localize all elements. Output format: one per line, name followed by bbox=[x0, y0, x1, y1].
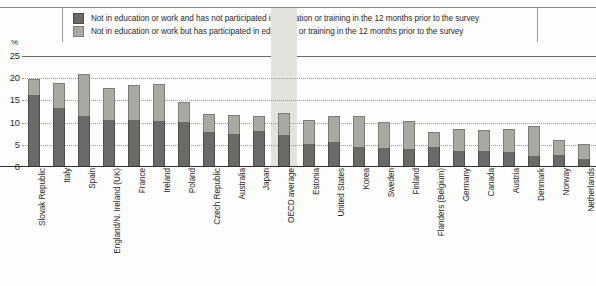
bar-denmark bbox=[528, 126, 540, 167]
bar-segment-not-participated bbox=[178, 122, 190, 167]
bar-segment-participated bbox=[353, 116, 365, 146]
bar-poland bbox=[178, 102, 190, 167]
bar-italy bbox=[53, 83, 65, 167]
y-tick-10: 10 bbox=[0, 118, 20, 128]
bar-segment-not-participated bbox=[278, 135, 290, 167]
bar-segment-not-participated bbox=[253, 131, 265, 167]
plot-area bbox=[22, 56, 596, 167]
gridline-20 bbox=[22, 78, 596, 79]
x-label-italy: Italy bbox=[63, 168, 72, 183]
x-label-canada: Canada bbox=[487, 168, 496, 196]
bar-segment-participated bbox=[53, 83, 65, 108]
bar-segment-not-participated bbox=[353, 147, 365, 167]
x-label-estonia: Estonia bbox=[312, 168, 321, 195]
y-tick-0: 0 bbox=[0, 162, 20, 172]
legend-swatch-dark bbox=[73, 13, 84, 24]
bar-segment-not-participated bbox=[153, 121, 165, 167]
bar-netherlands bbox=[578, 144, 590, 167]
bar-segment-participated bbox=[253, 116, 265, 132]
bar-korea bbox=[353, 116, 365, 167]
bar-finland bbox=[403, 121, 415, 167]
y-tick-20: 20 bbox=[0, 73, 20, 83]
bar-segment-participated bbox=[528, 126, 540, 156]
x-label-netherlands: Netherlands bbox=[587, 168, 596, 212]
x-label-norway: Norway bbox=[562, 168, 571, 195]
x-label-finland: Finland bbox=[412, 168, 421, 195]
bar-segment-participated bbox=[553, 140, 565, 156]
bar-segment-participated bbox=[103, 88, 115, 120]
x-label-poland: Poland bbox=[188, 168, 197, 193]
bar-oecd-average bbox=[278, 113, 290, 167]
bar-england-n-ireland-uk bbox=[103, 88, 115, 167]
bar-segment-participated bbox=[178, 102, 190, 122]
bar-germany bbox=[453, 129, 465, 167]
x-label-germany: Germany bbox=[462, 168, 471, 201]
bar-segment-participated bbox=[153, 84, 165, 121]
bar-estonia bbox=[303, 120, 315, 167]
bar-segment-not-participated bbox=[428, 147, 440, 167]
x-label-france: France bbox=[138, 168, 147, 193]
chart-figure: Not in education or work and has not par… bbox=[0, 0, 596, 286]
bar-segment-not-participated bbox=[453, 151, 465, 167]
bar-segment-participated bbox=[403, 121, 415, 149]
bar-segment-not-participated bbox=[378, 148, 390, 167]
bar-segment-participated bbox=[28, 79, 40, 95]
y-tick-25: 25 bbox=[0, 51, 20, 61]
x-label-oecd-average: OECD average bbox=[287, 168, 296, 223]
bar-france bbox=[128, 85, 140, 167]
bar-segment-participated bbox=[203, 114, 215, 133]
bar-segment-participated bbox=[228, 115, 240, 135]
x-label-slovak-republic: Slovak Republic bbox=[38, 168, 47, 226]
bar-canada bbox=[478, 130, 490, 167]
x-label-australia: Australia bbox=[238, 168, 247, 199]
x-label-spain: Spain bbox=[88, 168, 97, 189]
legend-item-participated: Not in education or work but has partici… bbox=[73, 25, 463, 38]
bar-segment-participated bbox=[78, 74, 90, 116]
bar-segment-not-participated bbox=[403, 149, 415, 167]
bar-segment-not-participated bbox=[503, 152, 515, 167]
bar-segment-not-participated bbox=[28, 95, 40, 167]
bar-austria bbox=[503, 129, 515, 167]
bar-czech-republic bbox=[203, 114, 215, 167]
chart-legend: Not in education or work and has not par… bbox=[62, 8, 538, 42]
bar-segment-participated bbox=[578, 144, 590, 158]
bar-segment-participated bbox=[303, 120, 315, 144]
legend-swatch-light bbox=[73, 26, 84, 37]
bar-segment-participated bbox=[378, 122, 390, 149]
bar-spain bbox=[78, 74, 90, 167]
x-label-england-n-ireland-uk: England/N. Ireland (UK) bbox=[113, 168, 122, 254]
bar-united-states bbox=[328, 116, 340, 167]
bar-australia bbox=[228, 115, 240, 167]
bar-segment-not-participated bbox=[128, 120, 140, 167]
x-label-czech-republic: Czech Republic bbox=[213, 168, 222, 225]
bar-segment-participated bbox=[453, 129, 465, 151]
x-label-korea: Korea bbox=[362, 168, 371, 190]
x-label-flanders-belgium: Flanders (Belgium) bbox=[437, 168, 446, 236]
bar-segment-not-participated bbox=[303, 144, 315, 167]
bar-segment-participated bbox=[278, 113, 290, 135]
x-axis-labels: Slovak RepublicItalySpainEngland/N. Irel… bbox=[22, 168, 596, 283]
bar-segment-participated bbox=[503, 129, 515, 152]
x-label-sweden: Sweden bbox=[387, 168, 396, 197]
bar-japan bbox=[253, 116, 265, 167]
x-label-japan: Japan bbox=[262, 168, 271, 190]
bar-segment-not-participated bbox=[203, 132, 215, 167]
bar-segment-not-participated bbox=[78, 116, 90, 167]
y-tick-5: 5 bbox=[0, 140, 20, 150]
y-tick-15: 15 bbox=[0, 95, 20, 105]
x-label-ireland: Ireland bbox=[163, 168, 172, 193]
bar-segment-participated bbox=[128, 85, 140, 120]
bar-flanders-belgium bbox=[428, 132, 440, 168]
y-axis-unit: % bbox=[11, 38, 18, 47]
bar-norway bbox=[553, 140, 565, 167]
x-label-denmark: Denmark bbox=[537, 168, 546, 201]
bar-ireland bbox=[153, 84, 165, 167]
x-label-united-states: United States bbox=[337, 168, 346, 217]
bar-segment-participated bbox=[428, 132, 440, 148]
bar-segment-not-participated bbox=[328, 142, 340, 167]
x-label-austria: Austria bbox=[512, 168, 521, 193]
bar-segment-not-participated bbox=[103, 120, 115, 167]
bar-segment-not-participated bbox=[53, 108, 65, 167]
bar-segment-not-participated bbox=[478, 151, 490, 167]
bar-segment-participated bbox=[478, 130, 490, 151]
